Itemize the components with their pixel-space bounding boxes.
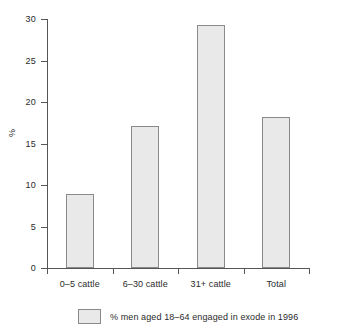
y-axis-tick-label: 5 [0,223,36,232]
x-axis-separator-tick [47,268,48,274]
y-axis-title: % [8,129,17,137]
x-axis-separator-tick [309,268,310,274]
plot-area [47,19,309,268]
x-axis-category-label: 31+ cattle [178,279,244,289]
bar [262,117,290,268]
bar-chart: % 051015202530 0–5 cattle6–30 cattle31+ … [0,0,348,335]
y-axis-tick-label: 0 [0,264,36,273]
legend-swatch-icon [78,309,101,324]
x-axis-category-label: Total [244,279,310,289]
legend-entry-label: % men aged 18–64 engaged in exode in 199… [110,312,298,322]
bar [197,25,225,268]
chart-legend: % men aged 18–64 engaged in exode in 199… [78,309,298,324]
x-axis-category-label: 0–5 cattle [47,279,113,289]
y-axis-tick-label: 15 [0,140,36,149]
bar [66,194,94,268]
x-axis-separator-tick [113,268,114,274]
y-axis-tick-label: 20 [0,98,36,107]
x-axis-separator-tick [244,268,245,274]
bar [131,126,159,268]
y-axis-tick-label: 10 [0,181,36,190]
y-axis-tick-label: 25 [0,57,36,66]
x-axis-separator-tick [178,268,179,274]
x-axis-category-label: 6–30 cattle [113,279,179,289]
y-axis-tick-label: 30 [0,15,36,24]
